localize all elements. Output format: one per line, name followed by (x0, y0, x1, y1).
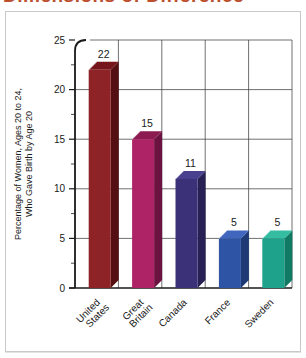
y-tick-label: 15 (54, 134, 66, 145)
y-tick-label: 5 (59, 233, 65, 244)
category-label: Sweden (242, 297, 275, 330)
category-label: Canada (156, 296, 189, 329)
bar-side-face (284, 230, 292, 288)
bar-side-face (241, 230, 249, 288)
bar-united-states (89, 62, 119, 288)
bar-value-label: 5 (231, 216, 237, 228)
category-labels: UnitedStatesGreatBritainCanadaFranceSwed… (74, 295, 276, 332)
y-axis-title-line2: Who Gave Birth by Age 20 (24, 111, 34, 217)
y-axis-line (75, 40, 86, 288)
bar-front-face (176, 179, 198, 288)
y-axis-title-line1: Percentage of Women, Ages 20 to 24, (13, 88, 23, 240)
category-label: GreatBritain (120, 295, 155, 330)
bar-great-britain (132, 131, 162, 288)
bar-value-label: 11 (185, 157, 196, 169)
bar-value-label: 22 (98, 48, 110, 60)
bar-front-face (89, 70, 111, 288)
bar-side-face (111, 62, 119, 288)
bars (89, 62, 293, 288)
bar-chart-svg: Percentage of Women, Ages 20 to 24, Who … (0, 0, 306, 358)
bar-value-label: 15 (141, 117, 153, 129)
bar-side-face (198, 171, 206, 288)
y-tick-label: 0 (59, 283, 65, 294)
category-label: France (203, 296, 233, 326)
page: { "page": { "clipped_title": "Dimensions… (0, 0, 306, 358)
bar-front-face (219, 238, 241, 288)
bar-front-face (132, 139, 154, 288)
bar-value-label: 5 (274, 216, 280, 228)
bar-sweden (262, 230, 292, 288)
bar-canada (176, 171, 206, 288)
bar-france (219, 230, 249, 288)
bar-side-face (154, 131, 162, 288)
bar-front-face (262, 238, 284, 288)
y-tick-label: 25 (54, 35, 66, 46)
y-tick-label: 20 (54, 84, 66, 95)
y-tick-labels: 0510152025 (54, 35, 66, 294)
y-tick-label: 10 (54, 183, 66, 194)
category-label: UnitedStates (74, 295, 111, 332)
